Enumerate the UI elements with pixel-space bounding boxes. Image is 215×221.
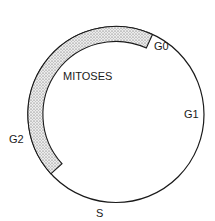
label-g2: G2	[9, 133, 24, 145]
label-mitoses: MITOSES	[63, 70, 112, 82]
label-s: S	[96, 207, 103, 219]
label-g1: G1	[184, 108, 199, 120]
label-g0: G0	[154, 40, 169, 52]
mitoses-band	[28, 26, 153, 173]
cell-cycle-diagram: G0 MITOSES G1 G2 S	[0, 0, 215, 221]
